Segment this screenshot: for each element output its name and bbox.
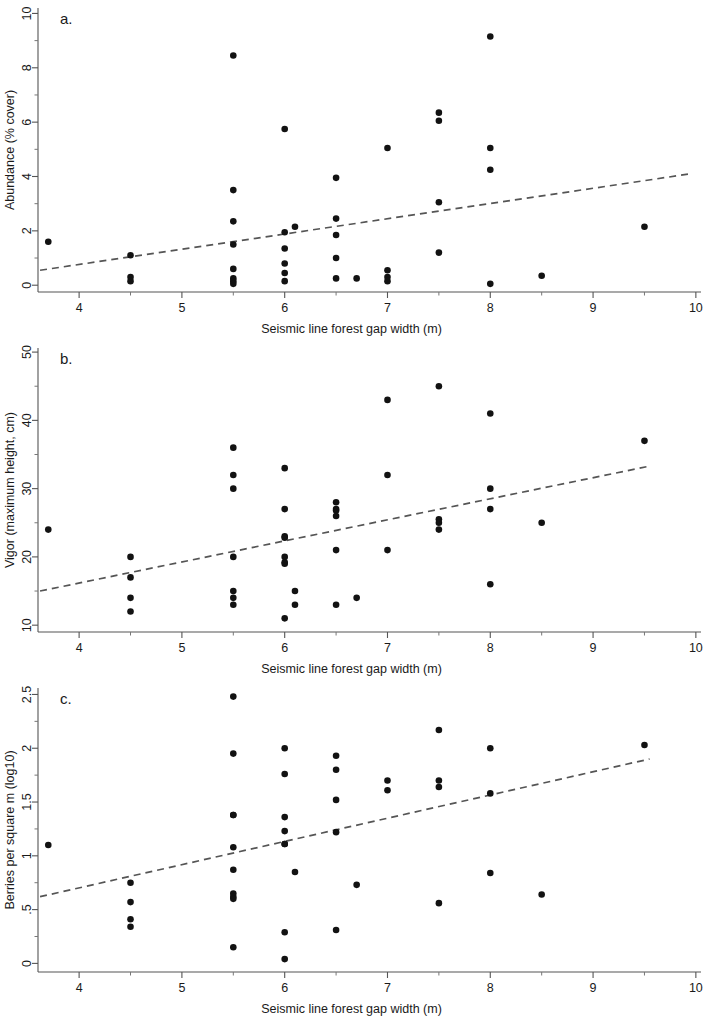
x-tick-label: 5 [178,301,185,315]
data-point [230,52,237,59]
regression-line-c [40,759,650,897]
plot-b: 456789101020304050b.Vigor (maximum heigh… [0,340,705,680]
data-point [127,924,134,931]
data-point [353,595,360,602]
data-point [281,814,288,821]
x-tick-label: 6 [281,981,288,995]
x-tick-label: 4 [76,981,83,995]
x-tick-label: 7 [384,641,391,655]
y-tick-label: 20 [20,550,34,564]
data-point [333,927,340,934]
y-tick-label: 50 [20,345,34,359]
data-point [230,844,237,851]
data-point [230,444,237,451]
data-point [281,126,288,133]
data-point [127,899,134,906]
data-point [230,281,237,288]
y-axis-title-c: Berries per square m (log10) [3,750,17,909]
data-point [281,506,288,513]
data-point [436,519,443,526]
data-point [230,693,237,700]
x-axis-title-a: Seismic line forest gap width (m) [261,322,442,336]
data-point [230,944,237,951]
scatter-figure: 456789100246810a.Abundance (% cover)Seis… [0,0,705,1025]
data-point [436,526,443,533]
data-point [230,554,237,561]
data-point [487,281,494,288]
x-tick-label: 8 [487,641,494,655]
y-tick-label: 2.5 [20,686,34,703]
x-axis-ticks-c: 45678910 [76,972,703,995]
x-axis-ticks-b: 45678910 [76,632,703,655]
y-tick-label: 2 [20,745,34,752]
data-point [436,900,443,907]
data-point [538,272,545,279]
data-point [281,260,288,267]
axes-a [38,8,701,292]
data-point [281,771,288,778]
data-point [384,787,391,794]
data-point [538,891,545,898]
x-tick-label: 4 [76,301,83,315]
data-point [292,601,299,608]
data-point [230,218,237,225]
y-tick-label: 40 [20,413,34,427]
data-point [281,615,288,622]
x-tick-label: 4 [76,641,83,655]
panel-letter-c: c. [60,690,72,707]
data-point [333,797,340,804]
axes-b [38,348,701,632]
data-point [436,727,443,734]
data-point [538,519,545,526]
panel-c: 456789100.511.522.5c.Berries per square … [0,680,705,1020]
y-tick-label: 0 [20,282,34,289]
x-tick-label: 7 [384,981,391,995]
data-point [436,777,443,784]
data-point [292,869,299,876]
data-point [333,275,340,282]
y-tick-label: 0 [20,960,34,967]
data-point [281,841,288,848]
data-point [436,199,443,206]
data-point [127,879,134,886]
x-tick-label: 7 [384,301,391,315]
data-point [230,241,237,248]
y-axis-ticks-b: 1020304050 [20,345,38,632]
y-axis-title-a: Abundance (% cover) [3,90,17,210]
data-point [487,33,494,40]
data-point [333,766,340,773]
x-tick-label: 10 [689,981,703,995]
data-point [436,383,443,390]
y-tick-label: 8 [20,64,34,71]
data-point [487,581,494,588]
data-point [333,752,340,759]
plot-c: 456789100.511.522.5c.Berries per square … [0,680,705,1020]
data-point [487,410,494,417]
x-tick-label: 9 [590,301,597,315]
data-point [127,916,134,923]
data-point [281,278,288,285]
data-point [333,601,340,608]
data-point [230,485,237,492]
y-tick-label: 10 [20,618,34,632]
data-point [230,812,237,819]
panel-letter-b: b. [60,350,73,367]
data-point [641,742,648,749]
data-point [487,166,494,173]
data-point [292,223,299,230]
data-point [487,506,494,513]
data-point [436,249,443,256]
data-point [384,267,391,274]
plot-a: 456789100246810a.Abundance (% cover)Seis… [0,0,705,340]
data-point [281,465,288,472]
data-point [487,790,494,797]
data-points-b [45,383,648,622]
data-point [281,270,288,277]
axes-c [38,688,701,972]
x-tick-label: 5 [178,981,185,995]
data-point [127,554,134,561]
data-point [281,929,288,936]
y-tick-label: 6 [20,119,34,126]
data-point [487,745,494,752]
y-axis-title-b: Vigor (maximum height, cm) [3,412,17,568]
